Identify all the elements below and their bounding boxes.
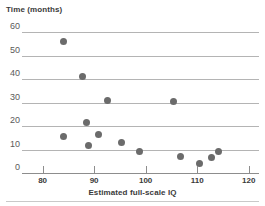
data-point xyxy=(177,153,184,160)
y-tick-label-50: 50 xyxy=(0,45,20,55)
gridline-30 xyxy=(22,103,259,104)
x-tick-label-90: 90 xyxy=(90,176,99,185)
x-tick-90 xyxy=(94,166,95,173)
data-point xyxy=(83,119,90,126)
data-point xyxy=(60,133,67,140)
x-tick-120 xyxy=(249,166,250,173)
data-point xyxy=(208,154,215,161)
y-tick-label-60: 60 xyxy=(0,21,20,31)
scatter-chart: Time (months) 0102030405060 809010011012… xyxy=(0,0,265,206)
x-tick-80 xyxy=(43,166,44,173)
data-point xyxy=(95,131,102,138)
data-point xyxy=(104,97,111,104)
x-axis-title: Estimated full-scale IQ xyxy=(0,188,265,197)
y-tick-label-30: 30 xyxy=(0,92,20,102)
gridline-40 xyxy=(22,79,259,80)
y-tick-label-10: 10 xyxy=(0,139,20,149)
y-axis-title: Time (months) xyxy=(6,5,62,14)
data-point xyxy=(136,148,143,155)
x-tick-110 xyxy=(197,166,198,173)
y-tick-label-40: 40 xyxy=(0,68,20,78)
x-tick-label-80: 80 xyxy=(38,176,47,185)
data-point xyxy=(215,148,222,155)
x-tick-100 xyxy=(146,166,147,173)
bottom-divider xyxy=(6,201,259,202)
data-point xyxy=(60,38,67,45)
data-point xyxy=(170,98,177,105)
gridline-50 xyxy=(22,56,259,57)
data-point xyxy=(85,142,92,149)
gridline-60 xyxy=(22,32,259,33)
x-tick-label-100: 100 xyxy=(139,176,152,185)
data-point xyxy=(118,139,125,146)
plot-area: 0102030405060 xyxy=(0,25,265,173)
gridline-20 xyxy=(22,126,259,127)
x-tick-label-110: 110 xyxy=(191,176,204,185)
x-axis-line xyxy=(22,173,259,174)
x-tick-label-120: 120 xyxy=(242,176,255,185)
y-tick-label-0: 0 xyxy=(0,162,20,172)
y-tick-label-20: 20 xyxy=(0,115,20,125)
